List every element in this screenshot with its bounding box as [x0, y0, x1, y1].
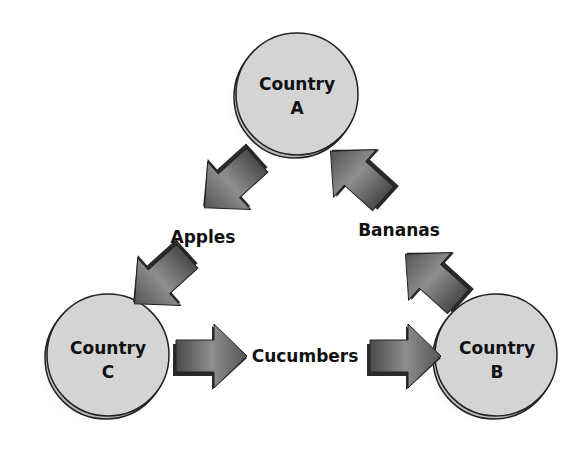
flow-cucumbers: Cucumbers — [173, 324, 441, 390]
node-label-line2: B — [491, 362, 504, 382]
node-label-line2: C — [102, 362, 114, 382]
trade-diagram: Country A Country C Country B Apples Cuc… — [0, 0, 584, 463]
flow-label: Cucumbers — [252, 346, 359, 366]
flow-bananas: Bananas — [309, 126, 483, 328]
arrow-right-icon — [173, 324, 247, 390]
node-label-line1: Country — [70, 338, 146, 358]
node-label-line1: Country — [259, 74, 335, 94]
flow-label: Apples — [171, 227, 236, 247]
node-label-line1: Country — [459, 338, 535, 358]
flow-label: Bananas — [358, 220, 440, 240]
flow-apples: Apples — [112, 133, 281, 328]
node-label-line2: A — [290, 98, 304, 118]
node-country-c: Country C — [34, 294, 169, 428]
node-country-b: Country B — [422, 294, 557, 428]
node-circle — [236, 33, 358, 155]
